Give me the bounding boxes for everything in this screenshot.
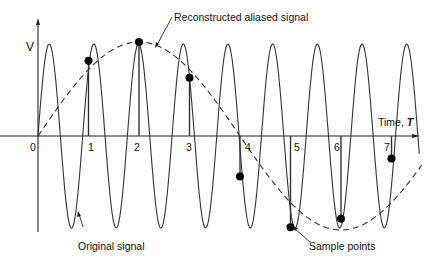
reconstructed-label: Reconstructed aliased signal	[174, 11, 308, 23]
leader-line	[294, 228, 310, 242]
y-axis-arrow-icon	[36, 18, 40, 25]
leader-line	[157, 17, 172, 45]
tick-label-1: 1	[88, 141, 94, 153]
x-axis-label: Time, T	[378, 116, 415, 128]
tick-label-6: 6	[334, 141, 340, 153]
tick-label-2: 2	[134, 141, 140, 153]
axes	[0, 18, 420, 232]
sample-point-dot	[135, 38, 143, 46]
sample-point-dot	[186, 74, 194, 82]
x-axis-arrow-icon	[412, 134, 420, 138]
sample-point-dot	[388, 155, 396, 163]
y-axis-label: V	[26, 40, 34, 54]
x-tick-labels: 0 1 2 3 4 5 6 7	[30, 141, 390, 153]
annotation-original: Original signal	[77, 211, 145, 252]
tick-label-5: 5	[294, 141, 300, 153]
tick-label-0: 0	[30, 141, 36, 153]
leader-arrow-icon	[77, 211, 81, 217]
sample-points	[85, 38, 396, 231]
annotation-reconstructed: Reconstructed aliased signal	[155, 11, 308, 48]
tick-label-7: 7	[384, 141, 390, 153]
sample-points-label: Sample points	[309, 240, 376, 252]
sample-point-dot	[85, 57, 93, 65]
aliasing-diagram: 0 1 2 3 4 5 6 7 V Time, T Reconstructed …	[0, 0, 435, 264]
x-axis-label-symbol: T	[407, 116, 415, 128]
sample-point-dot	[337, 215, 345, 223]
x-axis-label-text: Time,	[378, 116, 407, 128]
tick-label-4: 4	[245, 141, 251, 153]
original-label: Original signal	[78, 240, 145, 252]
tick-label-3: 3	[186, 141, 192, 153]
sample-point-dot	[236, 172, 244, 180]
